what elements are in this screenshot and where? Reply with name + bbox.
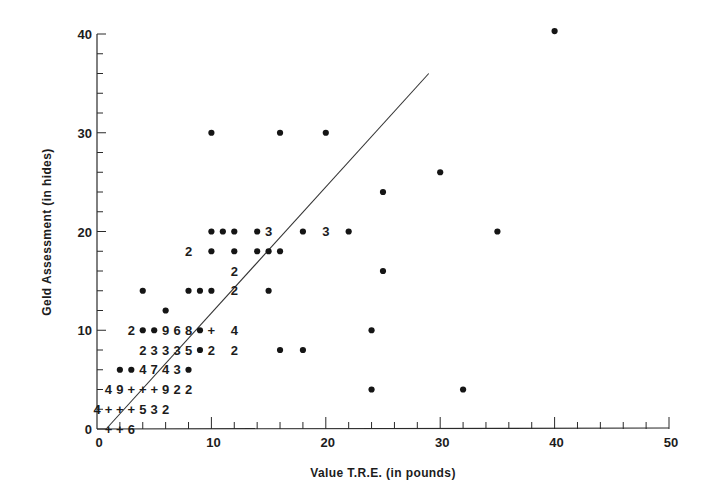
data-point xyxy=(254,228,260,234)
data-point xyxy=(380,189,386,195)
data-point-count: 3 xyxy=(173,362,180,377)
data-point xyxy=(208,288,214,294)
data-point-count: 4 xyxy=(105,382,113,397)
data-point xyxy=(117,367,123,373)
data-point-count: 2 xyxy=(185,382,192,397)
data-point-count: + xyxy=(139,382,147,397)
data-point-count: 9 xyxy=(162,323,169,338)
data-point-count: 7 xyxy=(151,362,158,377)
data-point-count: + xyxy=(116,422,124,437)
data-point-count: 4 xyxy=(162,362,170,377)
data-point xyxy=(323,130,329,136)
data-point xyxy=(266,248,272,254)
x-axis-line xyxy=(97,428,669,429)
data-point-count: 6 xyxy=(128,422,135,437)
x-tick-label: 30 xyxy=(435,435,449,450)
y-tick-label: 0 xyxy=(85,422,92,437)
data-point-count: 4 xyxy=(231,323,239,338)
data-point xyxy=(140,327,146,333)
y-tick-label: 40 xyxy=(78,27,92,42)
data-point xyxy=(277,248,283,254)
data-point-count: + xyxy=(150,382,158,397)
data-point-count: 5 xyxy=(185,343,192,358)
data-point-count: 3 xyxy=(265,224,272,239)
data-point-count: 3 xyxy=(151,402,158,417)
x-tick-label: 10 xyxy=(206,435,220,450)
data-point xyxy=(208,248,214,254)
x-tick-label: 0 xyxy=(95,435,102,450)
data-point xyxy=(346,228,352,234)
data-point-count: 2 xyxy=(128,323,135,338)
data-point-count: 2 xyxy=(173,382,180,397)
x-tick-label: 50 xyxy=(664,435,678,450)
data-point xyxy=(380,268,386,274)
x-tick-label: 20 xyxy=(321,435,335,450)
data-point xyxy=(197,327,203,333)
y-tick-label: 20 xyxy=(78,225,92,240)
data-point xyxy=(208,130,214,136)
data-point xyxy=(437,169,443,175)
data-point xyxy=(266,288,272,294)
data-point xyxy=(231,228,237,234)
data-point-count: 2 xyxy=(231,283,238,298)
data-point xyxy=(254,248,260,254)
data-point xyxy=(368,386,374,392)
y-axis-title: Geld Assessment (in hides) xyxy=(40,148,54,315)
data-point-count: + xyxy=(116,402,124,417)
y-tick-label: 10 xyxy=(78,323,92,338)
data-point xyxy=(300,347,306,353)
data-point-count: 2 xyxy=(162,402,169,417)
data-point xyxy=(368,327,374,333)
data-point-count: + xyxy=(128,382,136,397)
y-tick-label: 30 xyxy=(78,126,92,141)
data-point xyxy=(197,288,203,294)
data-point-count: + xyxy=(128,402,136,417)
data-point xyxy=(185,367,191,373)
data-point xyxy=(231,248,237,254)
data-point-count: 5 xyxy=(139,402,146,417)
data-point-count: 3 xyxy=(151,343,158,358)
data-point xyxy=(185,288,191,294)
data-points: 332222968+42333522474349+++9224+++532++6 xyxy=(93,28,557,437)
data-point xyxy=(460,386,466,392)
data-point-count: 3 xyxy=(173,343,180,358)
data-point xyxy=(300,228,306,234)
data-point xyxy=(163,307,169,313)
data-point-count: 2 xyxy=(208,343,215,358)
data-point xyxy=(140,288,146,294)
data-point xyxy=(197,347,203,353)
data-point-count: 3 xyxy=(322,224,329,239)
data-point xyxy=(277,347,283,353)
data-point-count: 8 xyxy=(185,323,192,338)
data-point xyxy=(494,228,500,234)
data-point-count: 6 xyxy=(173,323,180,338)
data-point xyxy=(552,28,558,34)
data-point xyxy=(220,228,226,234)
data-point-count: 4 xyxy=(93,402,101,417)
x-tick-label: 40 xyxy=(549,435,563,450)
data-point-count: 2 xyxy=(185,244,192,259)
data-point-count: + xyxy=(105,402,113,417)
data-point xyxy=(128,367,134,373)
scatter-chart: 01020304001020304050 332222968+423335224… xyxy=(0,0,712,497)
data-point-count: 9 xyxy=(162,382,169,397)
data-point xyxy=(208,228,214,234)
data-point-count: 2 xyxy=(231,343,238,358)
data-point-count: 2 xyxy=(139,343,146,358)
data-point-count: 9 xyxy=(116,382,123,397)
data-point xyxy=(151,327,157,333)
data-point-count: + xyxy=(105,422,113,437)
x-axis-title: Value T.R.E. (in pounds) xyxy=(310,466,456,480)
data-point-count: 4 xyxy=(139,362,147,377)
data-point-count: + xyxy=(208,323,216,338)
data-point-count: 3 xyxy=(162,343,169,358)
axes xyxy=(97,34,669,429)
data-point xyxy=(277,130,283,136)
data-point-count: 2 xyxy=(231,264,238,279)
